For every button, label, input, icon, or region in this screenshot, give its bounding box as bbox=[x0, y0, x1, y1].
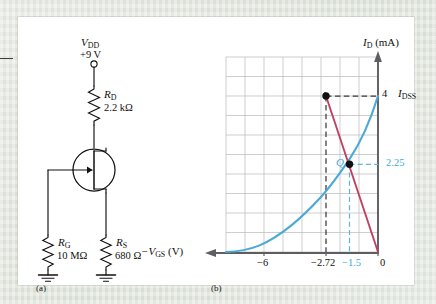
transfer-characteristic-chart: ID (mA) −VGS (V) −6 −2.72 −1.5 0 4 2.25 … bbox=[178, 17, 414, 285]
supply-value: +9 V bbox=[80, 50, 101, 61]
figure-screenshot: VDD +9 V RD 2.2 kΩ RG 10 MΩ RS 680 Ω (a) bbox=[0, 0, 436, 304]
rg-label: RG bbox=[58, 237, 70, 250]
rs-label: RS bbox=[116, 237, 127, 250]
x-tick-label-minus2p72: −2.72 bbox=[311, 258, 335, 269]
rd-label: RD bbox=[104, 89, 116, 102]
rd-symbol-subscript: D bbox=[111, 93, 117, 102]
rd-symbol: R bbox=[104, 88, 111, 100]
rd-value: 2.2 kΩ bbox=[104, 103, 133, 114]
ground-symbol-rs bbox=[97, 275, 116, 281]
resistor-rd bbox=[89, 86, 100, 125]
supply-label: VDD bbox=[81, 37, 99, 50]
idss-marker-point bbox=[322, 92, 329, 99]
x-axis-symbol-subscript: GS bbox=[155, 250, 165, 259]
idss-symbol-subscript: DSS bbox=[402, 92, 417, 101]
y-tick-label-4: 4 bbox=[382, 89, 387, 100]
crop-mark bbox=[0, 58, 13, 59]
chart-axes bbox=[205, 51, 382, 257]
rs-symbol-subscript: S bbox=[123, 241, 127, 250]
y-axis-unit: (mA) bbox=[375, 36, 399, 48]
rs-value: 680 Ω bbox=[115, 251, 141, 262]
y-axis-title: ID (mA) bbox=[363, 37, 399, 50]
resistor-rs bbox=[101, 235, 111, 270]
q-marker-point bbox=[346, 161, 353, 168]
rg-symbol: R bbox=[58, 236, 65, 248]
x-axis-title: −VGS (V) bbox=[141, 246, 183, 259]
rg-symbol-subscript: G bbox=[65, 241, 71, 250]
rs-symbol: R bbox=[116, 236, 123, 248]
x-tick-label-zero: 0 bbox=[380, 258, 385, 269]
x-axis-unit: (V) bbox=[168, 245, 183, 257]
rg-value: 10 MΩ bbox=[57, 251, 87, 262]
x-tick-label-minus1p5: −1.5 bbox=[342, 258, 361, 269]
supply-symbol: V bbox=[81, 36, 88, 48]
y-axis-symbol-subscript: D bbox=[367, 41, 373, 50]
supply-terminal-node bbox=[91, 61, 97, 67]
q-point-annotation: Q bbox=[336, 157, 344, 168]
x-axis-arrow-icon bbox=[205, 249, 216, 257]
panel-b-tag: (b) bbox=[211, 283, 222, 293]
idss-annotation: IDSS bbox=[398, 88, 416, 101]
ground-symbol-rg bbox=[39, 275, 58, 281]
x-tick-label-minus6: −6 bbox=[257, 258, 268, 269]
resistor-rg bbox=[43, 235, 53, 270]
figure-page: VDD +9 V RD 2.2 kΩ RG 10 MΩ RS 680 Ω (a) bbox=[18, 17, 414, 285]
y-tick-label-2p25: 2.25 bbox=[386, 158, 404, 169]
chart-grid bbox=[226, 57, 378, 252]
y-axis-arrow-icon bbox=[374, 51, 382, 62]
panel-a-tag: (a) bbox=[36, 283, 46, 293]
x-axis-symbol-prefix: −V bbox=[141, 245, 155, 257]
